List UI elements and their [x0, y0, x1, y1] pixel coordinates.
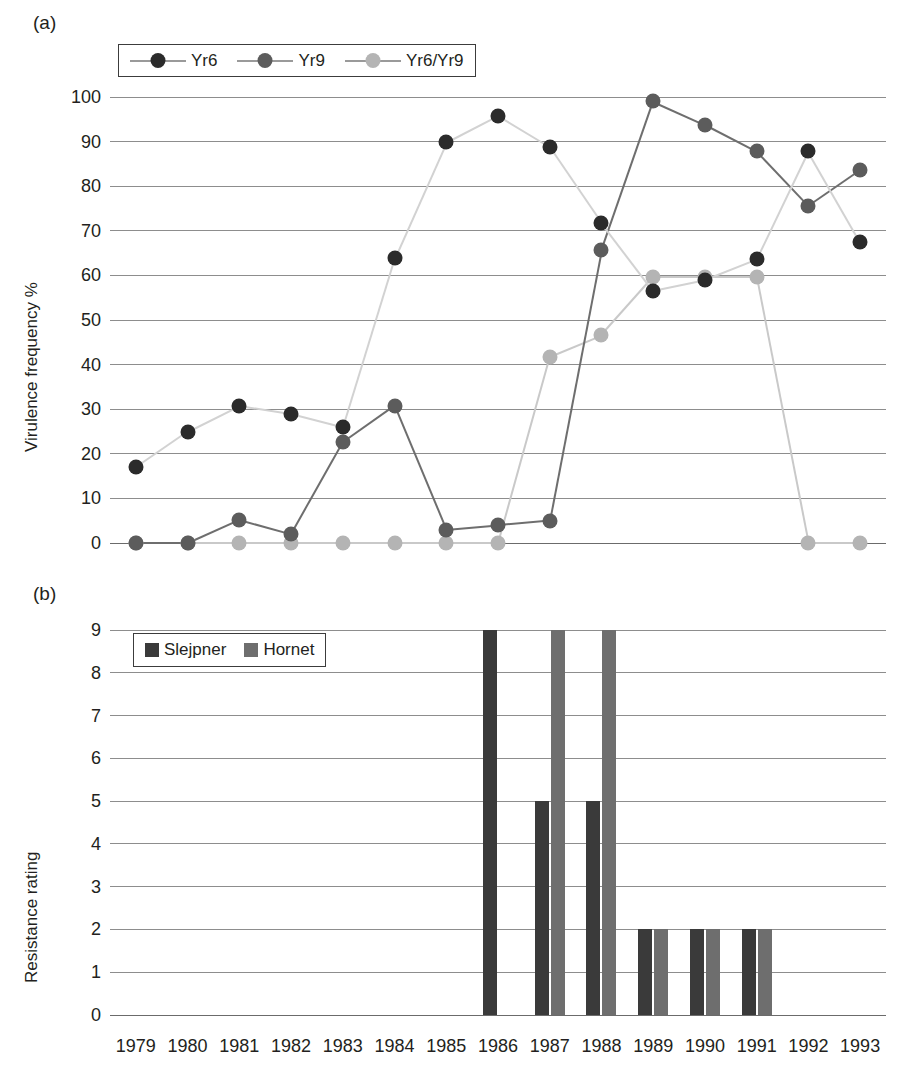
- data-point[interactable]: [232, 536, 247, 551]
- data-point[interactable]: [542, 349, 557, 364]
- data-point[interactable]: [128, 536, 143, 551]
- gridline: [110, 275, 886, 276]
- panel-b-y-axis-title: Resistance rating: [22, 852, 42, 983]
- data-point[interactable]: [491, 536, 506, 551]
- bar[interactable]: [535, 801, 549, 1015]
- data-point[interactable]: [335, 536, 350, 551]
- data-point[interactable]: [853, 234, 868, 249]
- data-point[interactable]: [594, 328, 609, 343]
- data-point[interactable]: [542, 139, 557, 154]
- data-point[interactable]: [335, 420, 350, 435]
- legend-item-yr6-yr9[interactable]: Yr6/Yr9: [345, 51, 464, 71]
- bar[interactable]: [706, 929, 720, 1015]
- gridline: [110, 141, 886, 142]
- line-segment: [549, 250, 602, 521]
- legend-label-slejpner: Slejpner: [164, 640, 226, 660]
- legend-item-slejpner[interactable]: Slejpner: [145, 640, 226, 660]
- data-point[interactable]: [180, 424, 195, 439]
- x-axis-tick-label: 1987: [530, 1036, 570, 1057]
- gridline: [110, 320, 886, 321]
- y-axis-tick-label: 50: [81, 311, 101, 329]
- line-segment: [756, 151, 809, 207]
- x-axis-tick-label: 1993: [840, 1036, 880, 1057]
- data-point[interactable]: [387, 398, 402, 413]
- line-segment: [290, 442, 343, 535]
- panel-b-plot-area: 0123456789: [110, 630, 886, 1015]
- data-point[interactable]: [128, 460, 143, 475]
- bar[interactable]: [654, 929, 668, 1015]
- x-axis-tick-label: 1983: [323, 1036, 363, 1057]
- data-point[interactable]: [646, 283, 661, 298]
- bar[interactable]: [483, 630, 497, 1015]
- data-point[interactable]: [646, 94, 661, 109]
- gridline: [110, 715, 886, 716]
- x-axis-tick-label: 1991: [737, 1036, 777, 1057]
- data-point[interactable]: [491, 518, 506, 533]
- y-axis-tick-label: 20: [81, 445, 101, 463]
- y-axis-tick-label: 7: [91, 707, 101, 725]
- y-axis-tick-label: 40: [81, 356, 101, 374]
- bar[interactable]: [551, 630, 565, 1015]
- y-axis-tick-label: 90: [81, 133, 101, 151]
- bar[interactable]: [758, 929, 772, 1015]
- data-point[interactable]: [801, 198, 816, 213]
- line-segment: [342, 405, 395, 443]
- data-point[interactable]: [697, 272, 712, 287]
- y-axis-tick-label: 5: [91, 792, 101, 810]
- data-point[interactable]: [439, 536, 454, 551]
- data-point[interactable]: [542, 513, 557, 528]
- y-axis-tick-label: 4: [91, 835, 101, 853]
- legend-item-yr9[interactable]: Yr9: [237, 51, 324, 71]
- bar[interactable]: [690, 929, 704, 1015]
- x-axis-tick-label: 1992: [788, 1036, 828, 1057]
- data-point[interactable]: [801, 536, 816, 551]
- data-point[interactable]: [232, 398, 247, 413]
- legend-marker-yr6-yr9: [365, 53, 380, 68]
- data-point[interactable]: [594, 215, 609, 230]
- legend-item-yr6[interactable]: Yr6: [130, 51, 217, 71]
- bar[interactable]: [586, 801, 600, 1015]
- x-axis-tick-label: 1980: [168, 1036, 208, 1057]
- figure: (a) Virulence frequency % Yr6 Yr9 Yr6/Yr…: [0, 0, 901, 1082]
- x-axis-tick-label: 1984: [375, 1036, 415, 1057]
- data-point[interactable]: [594, 243, 609, 258]
- data-point[interactable]: [749, 270, 764, 285]
- data-point[interactable]: [387, 536, 402, 551]
- x-axis-tick-label: 1988: [581, 1036, 621, 1057]
- bar[interactable]: [602, 630, 616, 1015]
- data-point[interactable]: [387, 251, 402, 266]
- data-point[interactable]: [284, 406, 299, 421]
- data-point[interactable]: [749, 252, 764, 267]
- line-segment: [394, 405, 447, 530]
- data-point[interactable]: [284, 527, 299, 542]
- data-point[interactable]: [439, 522, 454, 537]
- gridline: [110, 801, 886, 802]
- data-point[interactable]: [491, 108, 506, 123]
- data-point[interactable]: [853, 536, 868, 551]
- data-point[interactable]: [232, 512, 247, 527]
- line-segment: [808, 151, 861, 242]
- x-axis-tick-label: 1986: [478, 1036, 518, 1057]
- legend-item-hornet[interactable]: Hornet: [244, 640, 314, 660]
- panel-a-letter: (a): [33, 12, 56, 34]
- data-point[interactable]: [335, 435, 350, 450]
- legend-label-yr9: Yr9: [298, 51, 324, 71]
- y-axis-tick-label: 9: [91, 621, 101, 639]
- bar[interactable]: [742, 929, 756, 1015]
- line-segment: [601, 101, 654, 251]
- data-point[interactable]: [853, 163, 868, 178]
- gridline: [110, 843, 886, 844]
- data-point[interactable]: [697, 117, 712, 132]
- bar[interactable]: [638, 929, 652, 1015]
- data-point[interactable]: [439, 135, 454, 150]
- panel-b-legend: Slejpner Hornet: [133, 633, 326, 667]
- y-axis-tick-label: 8: [91, 664, 101, 682]
- data-point[interactable]: [749, 144, 764, 159]
- data-point[interactable]: [180, 536, 195, 551]
- data-point[interactable]: [801, 144, 816, 159]
- panel-a-plot-area: 0102030405060708090100: [110, 97, 886, 543]
- panel-a: (a) Virulence frequency % Yr6 Yr9 Yr6/Yr…: [0, 0, 901, 575]
- x-axis-tick-label: 1989: [633, 1036, 673, 1057]
- panel-a-legend: Yr6 Yr9 Yr6/Yr9: [118, 44, 476, 77]
- y-axis-tick-label: 70: [81, 222, 101, 240]
